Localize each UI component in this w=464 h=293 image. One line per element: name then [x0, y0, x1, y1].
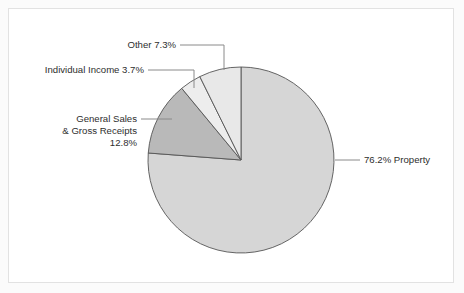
label-other: Other 7.3% [127, 39, 176, 50]
label-general-sales-line3: 12.8% [110, 137, 138, 148]
leader-line-other [180, 45, 224, 70]
label-general-sales-line1: General Sales [76, 113, 137, 124]
label-property: 76.2% Property [364, 154, 430, 165]
pie-slices [148, 67, 334, 253]
label-general-sales-line2: & Gross Receipts [62, 125, 137, 136]
pie-chart: Other 7.3% Individual Income 3.7% Genera… [0, 0, 464, 293]
chart-page: Other 7.3% Individual Income 3.7% Genera… [0, 0, 464, 293]
label-individual-income: Individual Income 3.7% [45, 64, 145, 75]
